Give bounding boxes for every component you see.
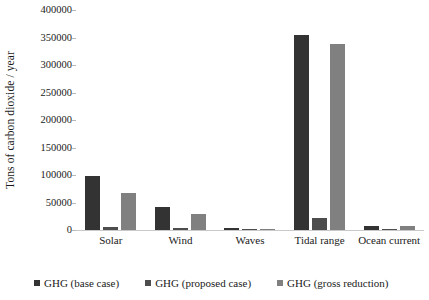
bar-groups: [76, 10, 424, 230]
legend-label: GHG (base case): [44, 277, 119, 289]
bar-slot: [85, 10, 100, 230]
bar-slot: [364, 10, 379, 230]
y-axis-tick-150000: 150000: [14, 143, 72, 153]
bar[interactable]: [382, 229, 397, 231]
y-axis-tick-0: 0: [14, 225, 72, 235]
bar-slot: [330, 10, 345, 230]
bar[interactable]: [173, 228, 188, 230]
bar-group: [354, 10, 424, 230]
y-axis-tick-mark: [72, 230, 76, 231]
x-axis-category-labels: SolarWindWavesTidal rangeOcean current: [76, 234, 424, 247]
bar-slot: [260, 10, 275, 230]
y-axis-tick-mark: [72, 10, 76, 11]
bar[interactable]: [155, 207, 170, 230]
x-axis-label-0: Solar: [76, 234, 146, 247]
legend-swatch-icon: [34, 280, 40, 286]
y-axis-tick-mark: [72, 148, 76, 149]
bar-slot: [121, 10, 136, 230]
bar-group: [146, 10, 216, 230]
chart-legend: GHG (base case)GHG (proposed case)GHG (g…: [34, 277, 414, 289]
y-axis-tick-300000: 300000: [14, 60, 72, 70]
bar-group: [215, 10, 285, 230]
x-axis-label-1: Wind: [146, 234, 216, 247]
bar-slot: [173, 10, 188, 230]
bar-slot: [224, 10, 239, 230]
legend-entry[interactable]: GHG (proposed case): [145, 277, 251, 289]
bar-group: [76, 10, 146, 230]
bar-slot: [103, 10, 118, 230]
y-axis-tick-mark: [72, 93, 76, 94]
bar[interactable]: [85, 176, 100, 230]
bar[interactable]: [260, 229, 275, 231]
bar[interactable]: [121, 193, 136, 230]
x-axis-label-4: Ocean current: [354, 234, 424, 247]
bar[interactable]: [364, 226, 379, 230]
y-axis-tick-400000: 400000: [14, 5, 72, 15]
y-axis-tick-mark: [72, 175, 76, 176]
legend-label: GHG (proposed case): [155, 277, 251, 289]
bar-slot: [191, 10, 206, 230]
bar-slot: [155, 10, 170, 230]
bar-slot: [382, 10, 397, 230]
y-axis-tick-mark: [72, 65, 76, 66]
bar-slot: [242, 10, 257, 230]
x-axis-line: [76, 230, 424, 231]
bar[interactable]: [191, 214, 206, 231]
legend-swatch-icon: [145, 280, 151, 286]
bar-group: [285, 10, 355, 230]
legend-swatch-icon: [277, 280, 283, 286]
legend-label: GHG (gross reduction): [287, 277, 388, 289]
y-axis-tick-mark: [72, 38, 76, 39]
y-axis-tick-350000: 350000: [14, 33, 72, 43]
y-axis-tick-200000: 200000: [14, 115, 72, 125]
x-axis-label-3: Tidal range: [285, 234, 355, 247]
y-axis-tick-100000: 100000: [14, 170, 72, 180]
bar[interactable]: [294, 35, 309, 230]
legend-entry[interactable]: GHG (base case): [34, 277, 119, 289]
y-axis-tick-mark: [72, 120, 76, 121]
bar[interactable]: [330, 44, 345, 230]
bar[interactable]: [312, 218, 327, 230]
y-axis-tick-250000: 250000: [14, 88, 72, 98]
bar[interactable]: [242, 229, 257, 231]
bar[interactable]: [224, 228, 239, 230]
y-axis-tick-mark: [72, 203, 76, 204]
bar-slot: [400, 10, 415, 230]
legend-entry[interactable]: GHG (gross reduction): [277, 277, 388, 289]
bar[interactable]: [400, 226, 415, 230]
x-axis-label-2: Waves: [215, 234, 285, 247]
bar-slot: [294, 10, 309, 230]
y-axis-tick-50000: 50000: [14, 198, 72, 208]
y-axis-tick-labels: 4000003500003000002500002000001500001000…: [10, 10, 72, 230]
bar-slot: [312, 10, 327, 230]
bar-chart: Tons of carbon dioxide / year 4000003500…: [0, 0, 429, 300]
bar[interactable]: [103, 227, 118, 230]
